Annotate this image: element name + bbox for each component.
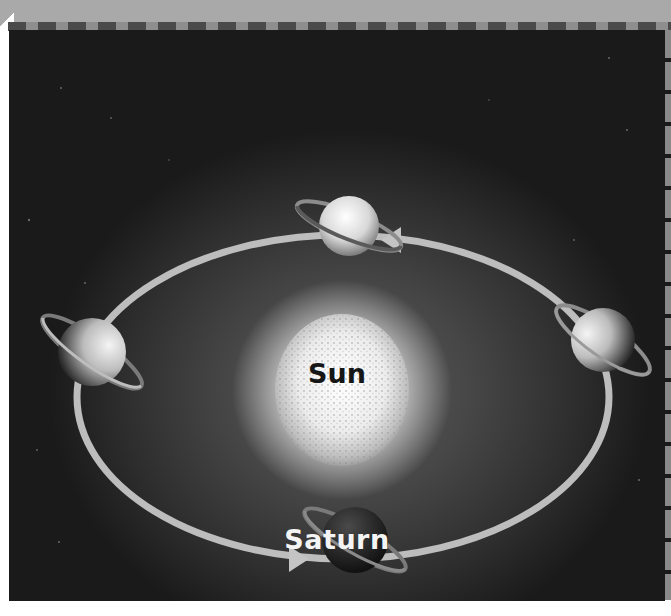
saturn-label: Saturn — [9, 524, 665, 555]
orbit-diagram-svg — [9, 30, 665, 601]
top-border-band — [0, 0, 671, 24]
sun-label: Sun — [9, 358, 665, 389]
sun-icon — [275, 314, 409, 466]
orbit-diagram: Sun Saturn — [9, 30, 665, 601]
right-dashed-border — [665, 30, 671, 600]
saturn-icon-top — [292, 192, 406, 260]
